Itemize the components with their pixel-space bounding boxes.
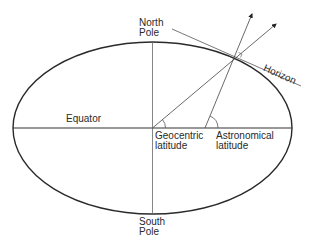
south-pole-label-line2: Pole [139,227,165,237]
north-pole-label: North Pole [139,18,163,38]
astronomical-latitude-label: Astronomical latitude [216,131,274,151]
geocentric-angle-arc [163,120,166,128]
geocentric-label-line2: latitude [155,141,203,151]
geocentric-latitude-label: Geocentric latitude [155,131,203,151]
geocentric-line [153,24,277,128]
north-pole-label-line2: Pole [139,28,163,38]
astronomical-angle-arc [210,116,218,128]
south-pole-label: South Pole [139,217,165,237]
equator-label: Equator [66,114,101,124]
astronomical-normal-line [205,14,252,128]
astronomical-label-line2: latitude [216,141,274,151]
